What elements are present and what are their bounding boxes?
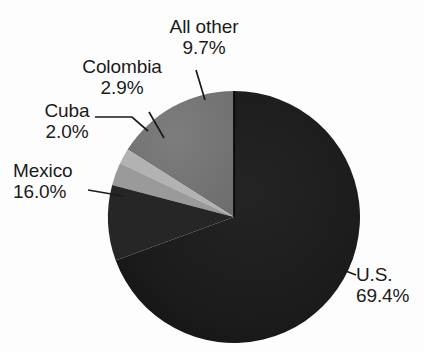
slice-label-all-other-value: 9.7% <box>146 37 262 58</box>
slice-label-mexico-value: 16.0% <box>13 181 105 202</box>
slice-label-colombia-value: 2.9% <box>64 77 180 98</box>
pie-chart: All other 9.7% Colombia 2.9% Cuba 2.0% M… <box>0 0 424 352</box>
slice-label-cuba-name: Cuba <box>31 100 103 121</box>
slice-label-all-other: All other 9.7% <box>146 16 262 58</box>
slice-label-mexico: Mexico 16.0% <box>13 160 105 202</box>
slice-label-colombia: Colombia 2.9% <box>64 56 180 98</box>
slice-label-all-other-name: All other <box>146 16 262 37</box>
slice-label-mexico-name: Mexico <box>13 160 105 181</box>
slice-label-us: U.S. 69.4% <box>356 264 422 306</box>
slice-label-us-name: U.S. <box>356 264 422 285</box>
slice-label-cuba-value: 2.0% <box>31 121 103 142</box>
slice-label-colombia-name: Colombia <box>64 56 180 77</box>
leader-line-all-other <box>196 70 205 100</box>
slice-label-cuba: Cuba 2.0% <box>31 100 103 142</box>
slice-label-us-value: 69.4% <box>356 285 422 306</box>
